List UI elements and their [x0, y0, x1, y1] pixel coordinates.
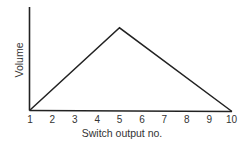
- x-tick-label: 10: [226, 114, 238, 125]
- x-axis-title: Switch output no.: [82, 127, 163, 139]
- x-tick-label: 5: [117, 114, 123, 125]
- x-tick-label: 3: [72, 114, 78, 125]
- y-axis-title: Volume: [13, 42, 25, 77]
- x-tick-label: 9: [206, 114, 212, 125]
- x-tick-label: 7: [162, 114, 168, 125]
- x-tick-label: 2: [50, 114, 56, 125]
- line-chart: 1 2 3 4 5 6 7 8 9 10 Switch output no. V…: [0, 0, 249, 148]
- x-axis: [30, 111, 233, 112]
- x-tick-label: 6: [139, 114, 145, 125]
- x-tick-labels: 1 2 3 4 5 6 7 8 9 10: [27, 114, 237, 125]
- x-tick-label: 4: [94, 114, 100, 125]
- x-tick-label: 8: [184, 114, 190, 125]
- volume-series-line: [30, 28, 233, 112]
- x-tick-label: 1: [27, 114, 33, 125]
